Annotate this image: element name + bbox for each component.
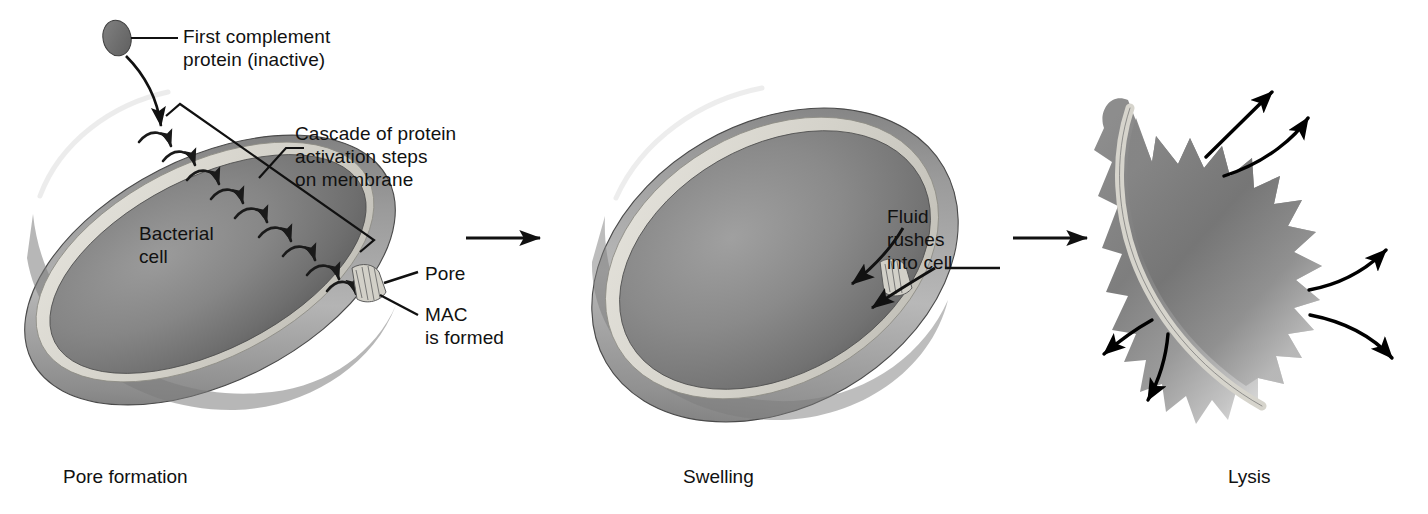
- mac-leader-line: [380, 295, 418, 315]
- caption-pore-formation: Pore formation: [63, 466, 188, 488]
- protein-to-membrane-arrow: [126, 56, 161, 126]
- label-bacterial-cell: Bacterial cell: [139, 222, 214, 268]
- complement-protein-ellipse-icon: [100, 17, 135, 58]
- stage-lysis: [1094, 92, 1392, 424]
- caption-lysis: Lysis: [1228, 466, 1271, 488]
- diagram-canvas: [0, 0, 1428, 514]
- label-first-complement-protein: First complement protein (inactive): [183, 25, 330, 71]
- label-mac-is-formed: MAC is formed: [425, 303, 504, 349]
- label-cascade-of-protein-activation: Cascade of protein activation steps on m…: [295, 122, 456, 191]
- stage-pore-formation: [0, 17, 439, 460]
- label-pore: Pore: [425, 262, 466, 285]
- pore-leader-line: [384, 272, 418, 283]
- label-fluid-rushes-into-cell: Fluid rushes into cell: [887, 205, 952, 274]
- caption-swelling: Swelling: [683, 466, 754, 488]
